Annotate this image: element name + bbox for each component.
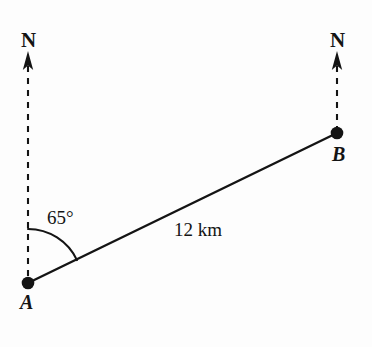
point-label-a: A: [20, 292, 33, 312]
diagram-canvas: [0, 0, 372, 347]
point-marker-b: [331, 127, 344, 140]
north-label-right: N: [330, 30, 345, 51]
segment-ab: [28, 133, 337, 283]
bearing-diagram: N N A B 65° 12 km: [0, 0, 372, 347]
angle-measure-label: 65°: [47, 208, 74, 227]
north-label-left: N: [21, 30, 36, 51]
point-label-b: B: [332, 144, 345, 164]
point-marker-a: [22, 277, 35, 290]
segment-length-label: 12 km: [174, 220, 222, 239]
angle-arc-65: [28, 229, 77, 260]
